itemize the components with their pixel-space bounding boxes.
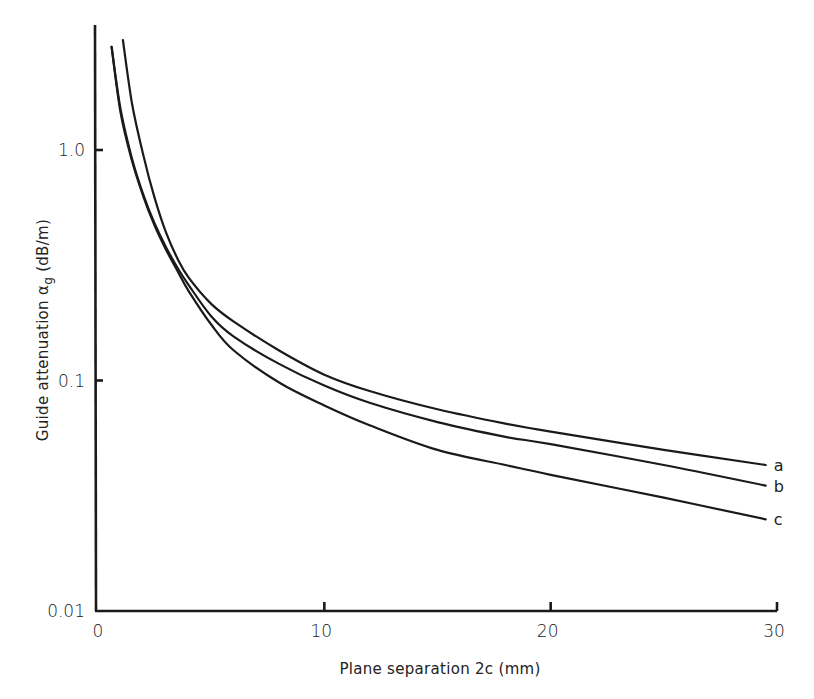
- y-tick-label: 0.01: [47, 601, 85, 621]
- x-tick-label: 0: [93, 621, 104, 641]
- curve-label-b: b: [774, 477, 784, 496]
- x-tick-label: 10: [311, 621, 333, 641]
- x-tick-label: 20: [537, 621, 559, 641]
- curve-label-c: c: [774, 510, 783, 529]
- y-axis-title: Guide attenuation αg (dB/m): [34, 219, 55, 441]
- curve-b: [112, 47, 766, 486]
- attenuation-chart: 0102030 0.010.11.0 abc Plane separation …: [0, 0, 814, 699]
- y-tick-label: 1.0: [58, 140, 85, 160]
- x-axis-ticks: 0102030: [93, 602, 785, 641]
- y-axis-title-subscript: g: [41, 277, 55, 285]
- curve-label-a: a: [774, 456, 784, 475]
- y-axis-line: [95, 25, 96, 611]
- curves: abc: [112, 40, 784, 529]
- curve-a: [123, 40, 766, 465]
- curve-c: [112, 47, 766, 519]
- y-axis-title-main: Guide attenuation α: [34, 285, 52, 441]
- x-tick-label: 30: [763, 621, 785, 641]
- y-axis-title-unit: (dB/m): [34, 219, 52, 277]
- y-tick-label: 0.1: [58, 371, 85, 391]
- x-axis-title: Plane separation 2c (mm): [339, 660, 540, 678]
